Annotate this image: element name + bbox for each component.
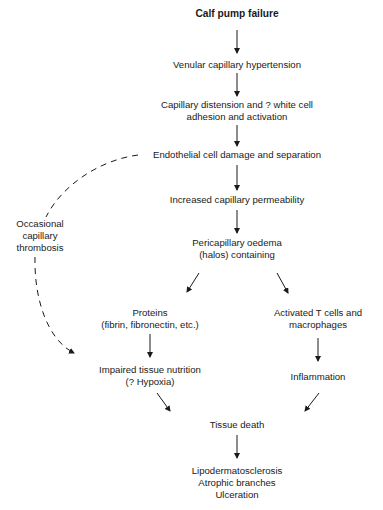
node-pericapillary-oedema: Pericapillary oedema (halos) containing	[137, 237, 337, 261]
node-impaired-tissue-nutrition: Impaired tissue nutrition (? Hypoxia)	[80, 364, 220, 388]
node-text: macrophages	[258, 319, 378, 331]
node-occasional-thrombosis: Occasional capillary thrombosis	[0, 218, 80, 254]
node-calf-pump-failure: Calf pump failure	[137, 8, 337, 20]
node-text: Activated T cells and	[258, 307, 378, 319]
node-increased-permeability: Increased capillary permeability	[137, 194, 337, 206]
node-venular-capillary-hypertension: Venular capillary hypertension	[137, 59, 337, 71]
node-text: Inflammation	[268, 371, 368, 383]
node-text: (fibrin, fibronectin, etc.)	[90, 319, 210, 331]
arrow-oedema-to-tcells	[277, 273, 288, 293]
node-activated-t-cells: Activated T cells and macrophages	[258, 307, 378, 331]
arrow-inflammation-to-death	[305, 393, 319, 411]
node-text: Impaired tissue nutrition	[80, 364, 220, 376]
node-text: Increased capillary permeability	[137, 194, 337, 206]
node-outcomes: Lipodermatosclerosis Atrophic branches U…	[167, 465, 307, 501]
node-text: Proteins	[90, 307, 210, 319]
node-text: Ulceration	[167, 489, 307, 501]
node-text: (? Hypoxia)	[80, 376, 220, 388]
node-endothelial-damage: Endothelial cell damage and separation	[137, 149, 337, 161]
node-text: Capillary distension and ? white cell	[117, 99, 357, 111]
node-text: adhesion and activation	[117, 111, 357, 123]
node-text: Pericapillary oedema	[137, 237, 337, 249]
node-capillary-distension: Capillary distension and ? white cell ad…	[117, 99, 357, 123]
node-text: capillary	[0, 230, 80, 242]
arrow-impaired-to-death	[157, 393, 170, 411]
arrow-oedema-to-proteins	[187, 273, 199, 292]
node-proteins: Proteins (fibrin, fibronectin, etc.)	[90, 307, 210, 331]
node-text: Calf pump failure	[137, 8, 337, 20]
node-text: (halos) containing	[137, 249, 337, 261]
node-inflammation: Inflammation	[268, 371, 368, 383]
node-text: thrombosis	[0, 242, 80, 254]
node-text: Occasional	[0, 218, 80, 230]
node-text: Endothelial cell damage and separation	[137, 149, 337, 161]
node-text: Venular capillary hypertension	[137, 59, 337, 71]
dashed-arrow-thrombosis-to-impaired	[35, 257, 74, 353]
node-tissue-death: Tissue death	[187, 419, 287, 431]
node-text: Tissue death	[187, 419, 287, 431]
node-text: Atrophic branches	[167, 477, 307, 489]
dashed-arrow-endothelial-to-thrombosis	[46, 155, 138, 217]
node-text: Lipodermatosclerosis	[167, 465, 307, 477]
